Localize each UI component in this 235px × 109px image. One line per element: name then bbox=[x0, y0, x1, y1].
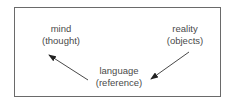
arrows-layer bbox=[0, 0, 235, 109]
arrow-reality-to-language bbox=[151, 52, 189, 79]
arrow-language-to-mind bbox=[49, 55, 88, 80]
